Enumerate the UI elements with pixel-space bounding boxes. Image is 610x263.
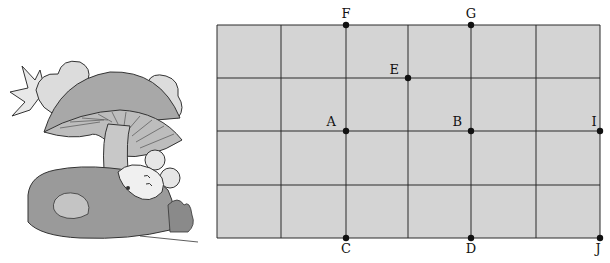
point-dot bbox=[468, 22, 474, 28]
point-dot bbox=[468, 128, 474, 134]
point-label: C bbox=[341, 241, 351, 256]
point-dot bbox=[405, 75, 411, 81]
point-dot bbox=[343, 22, 349, 28]
point-label: E bbox=[390, 62, 400, 77]
point-label: A bbox=[326, 114, 337, 129]
point-label: J bbox=[593, 241, 600, 256]
point-label: D bbox=[466, 241, 476, 256]
point-dot bbox=[343, 128, 349, 134]
point-label: B bbox=[452, 114, 462, 129]
point-f: F bbox=[341, 6, 350, 28]
coordinate-grid: ABCDEFGIJ bbox=[0, 0, 610, 263]
point-dot bbox=[597, 128, 603, 134]
point-label: I bbox=[591, 114, 596, 129]
point-label: G bbox=[466, 6, 476, 21]
point-label: F bbox=[341, 6, 350, 21]
